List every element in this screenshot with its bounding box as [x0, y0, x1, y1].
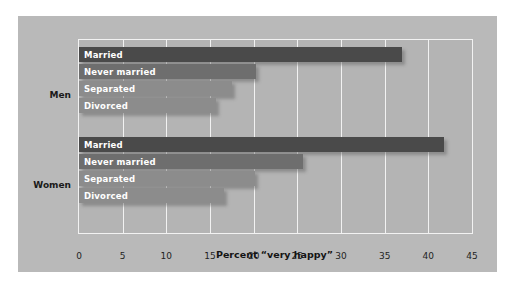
- bar: Married: [79, 137, 444, 152]
- x-axis-title: Percent “very happy”: [78, 250, 471, 260]
- bar-label: Divorced: [84, 191, 128, 200]
- bar-row: Separated: [79, 171, 472, 186]
- bar: Divorced: [79, 98, 216, 113]
- bar: Separated: [79, 171, 255, 186]
- chart-panel: MarriedNever marriedSeparatedDivorcedMar…: [18, 16, 497, 272]
- bar-row: Never married: [79, 64, 472, 79]
- bar: Never married: [79, 64, 256, 79]
- bar-label: Separated: [84, 84, 135, 93]
- bar-row: Married: [79, 47, 472, 62]
- chart-figure: MarriedNever marriedSeparatedDivorcedMar…: [0, 0, 516, 287]
- bar-row: Separated: [79, 81, 472, 96]
- bar-label: Married: [84, 50, 123, 59]
- bar-row: Never married: [79, 154, 472, 169]
- bar-row: Divorced: [79, 188, 472, 203]
- bar-row: Married: [79, 137, 472, 152]
- bar-label: Divorced: [84, 101, 128, 110]
- bar-row: Divorced: [79, 98, 472, 113]
- bar: Married: [79, 47, 402, 62]
- bar-label: Separated: [84, 174, 135, 183]
- bar-label: Never married: [84, 157, 156, 166]
- group-label-men: Men: [50, 91, 71, 100]
- plot-area: MarriedNever marriedSeparatedDivorcedMar…: [78, 39, 473, 234]
- bar-label: Married: [84, 140, 123, 149]
- bar: Never married: [79, 154, 303, 169]
- bar: Divorced: [79, 188, 224, 203]
- group-labels: MenWomen: [18, 32, 71, 287]
- bar: Separated: [79, 81, 232, 96]
- group-label-women: Women: [33, 181, 71, 190]
- bar-label: Never married: [84, 67, 156, 76]
